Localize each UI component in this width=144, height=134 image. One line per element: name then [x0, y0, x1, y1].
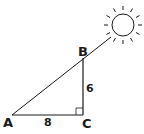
side-ab-extended-to-sun	[12, 37, 111, 115]
side-length-ac: 8	[44, 116, 52, 129]
vertex-label-b: B	[78, 44, 88, 59]
side-length-cb: 6	[86, 82, 94, 95]
vertex-label-a: A	[3, 115, 13, 130]
right-angle-marker	[76, 108, 83, 115]
triangle-diagram: A B C 8 6	[0, 0, 144, 134]
vertex-label-c: C	[82, 116, 92, 131]
